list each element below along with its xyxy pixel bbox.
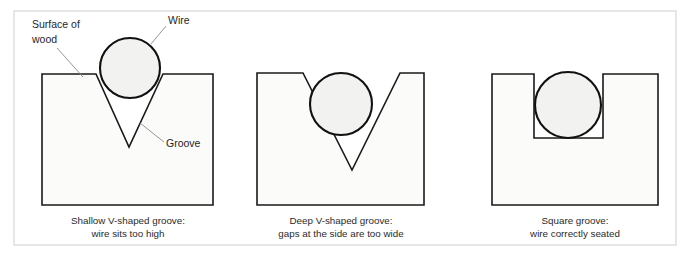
callout-wire: Wire <box>168 14 190 26</box>
caption-shallow-v-line1: Shallow V-shaped groove: <box>71 215 185 226</box>
callout-groove: Groove <box>166 137 201 149</box>
groove-comparison-diagram: Surface of wood Wire Groove Shallow V-sh… <box>0 0 692 263</box>
callout-surface-of-wood-line2: wood <box>31 33 57 45</box>
wire-cross-section-shallow-v <box>100 38 160 98</box>
caption-square-line1: Square groove: <box>542 215 609 226</box>
wire-cross-section-deep-v <box>310 73 372 135</box>
caption-square-line2: wire correctly seated <box>529 228 620 239</box>
caption-shallow-v-line2: wire sits too high <box>91 228 165 239</box>
figure-root: Surface of wood Wire Groove Shallow V-sh… <box>0 0 692 263</box>
caption-deep-v-line1: Deep V-shaped groove: <box>290 215 393 226</box>
caption-deep-v-line2: gaps at the side are too wide <box>278 228 404 239</box>
callout-surface-of-wood-line1: Surface of <box>32 18 80 30</box>
wire-cross-section-square <box>535 72 601 138</box>
